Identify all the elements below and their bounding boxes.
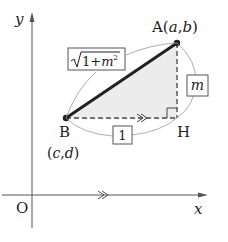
origin-label: O [16,199,28,217]
point-A-close-paren: ) [192,18,198,36]
y-axis-label: y [14,10,24,28]
vertical-length-label: m [191,77,204,93]
x-axis-arrowhead [198,193,208,198]
hypotenuse-radicand: 1+m [82,54,114,69]
point-B-y: d [65,145,74,161]
arc-horizontal-left [66,118,113,136]
y-axis-arrowhead [30,12,35,22]
radicand-one: 1+ [82,54,101,69]
point-A-name: A [151,18,163,36]
point-H-label: H [177,123,190,141]
point-A-label: A(a,b) [151,18,198,36]
x-axis-label: x [194,200,203,218]
hypotenuse-exponent: 2 [113,53,118,62]
point-A-y: b [182,18,192,36]
radicand-m: m [101,54,113,69]
slope-triangle-diagram: 1+m 2 m 1 A(a,b) B (c,d) H y x O [0,0,228,242]
point-A-x: a [169,18,178,36]
horizontal-length-label: 1 [118,128,126,143]
point-B-label: B [59,123,70,141]
point-B-coords: (c,d) [47,145,79,161]
point-B-x: c [52,145,60,161]
point-B-close-paren: ) [74,145,79,161]
